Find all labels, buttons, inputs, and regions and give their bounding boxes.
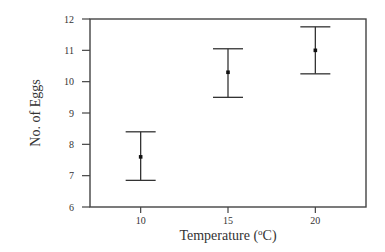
y-axis: 6789101112 (64, 14, 90, 213)
x-tick-label: 20 (310, 215, 320, 226)
y-tick-label: 9 (69, 108, 74, 119)
y-tick-label: 7 (69, 170, 74, 181)
y-tick-label: 6 (69, 202, 74, 213)
y-tick-label: 10 (64, 76, 74, 87)
y-tick-label: 12 (64, 14, 74, 25)
plot-frame (90, 19, 366, 207)
y-axis-title: No. of Eggs (28, 79, 43, 146)
error-bar (213, 49, 243, 98)
error-bar (126, 132, 156, 181)
mean-marker (314, 49, 318, 53)
y-tick-label: 11 (64, 45, 74, 56)
x-tick-label: 15 (223, 215, 233, 226)
x-axis-title: Temperature (oC) (179, 227, 277, 244)
x-tick-label: 10 (136, 215, 146, 226)
chart-canvas: 6789101112 101520 No. of Eggs Temperatur… (0, 0, 385, 252)
errorbar-chart: 6789101112 101520 No. of Eggs Temperatur… (0, 0, 385, 252)
error-bars (126, 27, 331, 181)
x-axis: 101520 (136, 207, 321, 226)
error-bar (300, 27, 330, 74)
mean-marker (226, 70, 230, 74)
plot-border (90, 19, 366, 207)
mean-marker (139, 155, 143, 159)
y-tick-label: 8 (69, 139, 74, 150)
